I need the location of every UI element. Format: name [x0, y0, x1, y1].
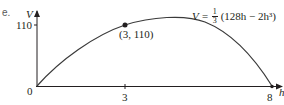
equation-fraction: 1 3 — [212, 8, 218, 25]
x-tick-label-8: 8 — [267, 92, 273, 103]
marked-point — [123, 23, 128, 28]
origin-label: 0 — [27, 86, 33, 97]
curve-series — [37, 17, 272, 86]
point-label: (3, 110) — [119, 29, 153, 40]
y-tick-label-110: 110 — [16, 20, 32, 31]
x-tick-label-3: 3 — [122, 92, 128, 103]
part-label: e. — [2, 7, 10, 18]
endpoint-8 — [270, 85, 274, 89]
equation-lhs: V = — [192, 11, 209, 22]
equation-label: V = 1 3 (128h − 2h³) — [192, 8, 276, 25]
fraction-denominator: 3 — [213, 17, 217, 25]
x-axis-label: h — [279, 87, 284, 98]
fraction-numerator: 1 — [213, 8, 217, 16]
equation-rhs: (128h − 2h³) — [221, 11, 276, 22]
